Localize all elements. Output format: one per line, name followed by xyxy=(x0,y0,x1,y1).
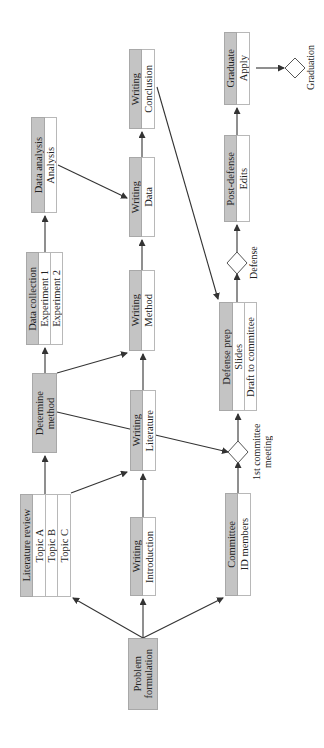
node-title-line2: formulation xyxy=(143,649,154,699)
node-item: Introduction xyxy=(144,531,155,583)
node-title: Data collection xyxy=(27,267,38,331)
node-item: ID members xyxy=(239,518,250,570)
milestone-diamond-first-meeting xyxy=(228,441,248,463)
node-item: Edits xyxy=(238,168,249,190)
milestone-diamond-defense xyxy=(227,252,247,274)
node-item: Method xyxy=(143,294,154,327)
node-item: Literature xyxy=(144,410,155,451)
node-committee: Committee ID members xyxy=(225,493,251,596)
node-title: Writing xyxy=(130,181,141,213)
node-item: Experiment 2 xyxy=(51,270,62,327)
node-title-line2: method xyxy=(45,397,56,429)
milestone-label-defense: Defense xyxy=(248,240,259,286)
node-writing-data: Writing Data xyxy=(129,157,155,237)
node-title: Writing xyxy=(130,73,141,105)
node-writing-literature: Writing Literature xyxy=(130,390,156,471)
node-writing-conclusion: Writing Conclusion xyxy=(129,49,155,129)
node-item: Apply xyxy=(238,55,249,81)
node-title: Writing xyxy=(131,414,142,446)
node-title: Graduate xyxy=(225,49,236,87)
node-title: Writing xyxy=(131,540,142,572)
node-defense-prep: Defense prep Slides Draft to committee xyxy=(219,302,257,411)
node-writing-method: Writing Method xyxy=(129,270,155,351)
node-literature-review: Literature review Topic A Topic B Topic … xyxy=(20,494,71,597)
node-graduate: Graduate Apply xyxy=(224,32,250,105)
node-item: Analysis xyxy=(45,147,56,184)
node-title: Post-defense xyxy=(225,152,236,206)
milestone-label-graduation: Graduation xyxy=(305,40,316,96)
node-data-collection: Data collection Experiment 1 Experiment … xyxy=(26,252,63,345)
node-title: Writing xyxy=(130,294,141,326)
milestone-diamond-graduation xyxy=(285,58,305,78)
node-title-line1: Problem xyxy=(132,656,143,692)
node-item: Draft to committee xyxy=(245,317,256,397)
node-item: Data xyxy=(143,187,154,207)
node-title: Literature review xyxy=(21,509,32,582)
node-title: Committee xyxy=(226,521,237,568)
node-determine-method: Determinemethod xyxy=(32,373,57,453)
node-title: Data analysis xyxy=(33,137,44,193)
node-problem-formulation: Problemformulation xyxy=(128,638,158,710)
node-item: Experiment 1 xyxy=(39,270,50,327)
node-item: Topic C xyxy=(59,529,70,562)
node-data-analysis: Data analysis Analysis xyxy=(31,117,57,213)
node-post-defense: Post-defense Edits xyxy=(224,135,250,222)
node-item: Topic B xyxy=(46,529,57,562)
milestone-label-first-meeting: 1st committeemeeting xyxy=(251,412,273,492)
node-item: Topic A xyxy=(34,529,45,562)
node-title-line1: Determine xyxy=(34,391,45,435)
node-writing-introduction: Writing Introduction xyxy=(130,517,156,596)
node-title: Defense prep xyxy=(221,329,232,385)
node-item: Slides xyxy=(233,344,244,370)
node-item: Conclusion xyxy=(143,65,154,113)
